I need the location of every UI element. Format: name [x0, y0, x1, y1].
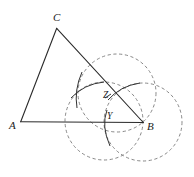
dashed-circle-on-bc [78, 54, 156, 132]
arc-through-z [108, 83, 140, 100]
geometry-diagram: C A B Z Y [0, 0, 194, 177]
side-ca [21, 28, 57, 121]
label-y: Y [107, 111, 114, 121]
label-a: A [8, 119, 16, 131]
label-z: Z [103, 90, 109, 100]
label-b: B [147, 120, 154, 132]
side-bc [57, 28, 144, 122]
label-c: C [53, 11, 61, 23]
side-ab [21, 122, 144, 123]
